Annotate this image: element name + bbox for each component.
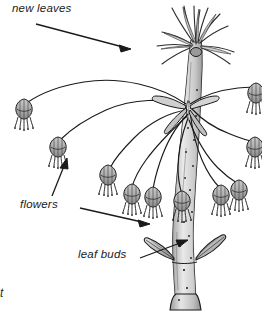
flower [245,137,262,169]
apex-node [190,48,202,57]
flower [211,185,231,217]
flower [143,187,163,219]
flower [229,180,249,212]
leaf-bud-right [196,235,226,260]
flower [14,99,34,131]
corner-text-fragment: t [0,286,3,300]
flower-pedicels [28,80,258,194]
arrow-flowers [80,208,150,227]
botanical-illustration: new leaves flowers leaf buds t [0,0,262,312]
label-new-leaves: new leaves [12,2,72,14]
label-flowers: flowers [20,198,58,210]
plant-drawing [0,0,262,312]
flower [122,184,142,216]
label-leaf-buds: leaf buds [78,248,126,260]
leaf-bud-left [144,238,174,260]
flower [98,165,118,197]
arrow-new-leaves [36,24,131,52]
main-stem [170,40,202,310]
